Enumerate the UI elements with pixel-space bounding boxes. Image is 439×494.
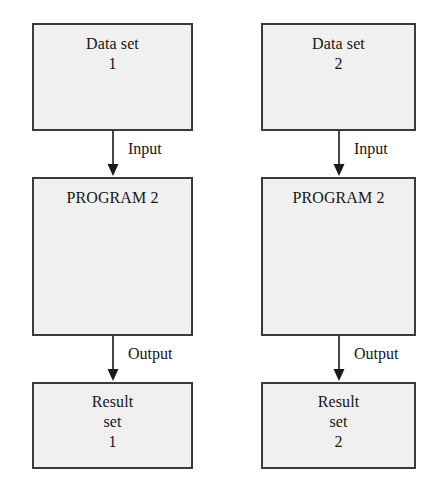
- node-data-set-2-line-2: 2: [334, 54, 342, 74]
- edge-output-2-arrow: [332, 336, 346, 382]
- node-result-set-1-line-2: set: [103, 412, 121, 432]
- node-result-set-2-line-3: 2: [334, 432, 342, 452]
- edge-input-2-label: Input: [354, 140, 388, 158]
- node-data-set-2-line-1: Data set: [312, 34, 365, 54]
- node-result-set-1-line-3: 1: [108, 432, 116, 452]
- node-result-set-2-line-2: set: [329, 412, 347, 432]
- node-data-set-1-line-2: 1: [108, 54, 116, 74]
- edge-input-1-label: Input: [128, 140, 162, 158]
- edge-output-1-arrow: [106, 336, 120, 382]
- node-result-set-2-line-1: Result: [318, 392, 360, 412]
- edge-input-1-arrow: [106, 131, 120, 177]
- flowchart-diagram: Data set 1 Input PROGRAM 2 Output Result…: [0, 0, 439, 494]
- edge-input-2-arrow: [332, 131, 346, 177]
- node-data-set-2: Data set 2: [261, 23, 416, 131]
- edge-output-2-label: Output: [354, 345, 398, 363]
- node-program-2: PROGRAM 2: [261, 177, 416, 336]
- node-result-set-2: Result set 2: [261, 382, 416, 469]
- node-program-2-line-1: PROGRAM 2: [292, 188, 384, 208]
- pipeline-column-1: Data set 1 Input PROGRAM 2 Output Result…: [0, 0, 220, 494]
- node-data-set-1-line-1: Data set: [86, 34, 139, 54]
- edge-output-1-label: Output: [128, 345, 172, 363]
- node-program-1: PROGRAM 2: [32, 177, 193, 336]
- pipeline-column-2: Data set 2 Input PROGRAM 2 Output Result…: [229, 0, 439, 494]
- node-data-set-1: Data set 1: [32, 23, 193, 131]
- node-result-set-1-line-1: Result: [92, 392, 134, 412]
- node-program-1-line-1: PROGRAM 2: [66, 188, 158, 208]
- node-result-set-1: Result set 1: [32, 382, 193, 469]
